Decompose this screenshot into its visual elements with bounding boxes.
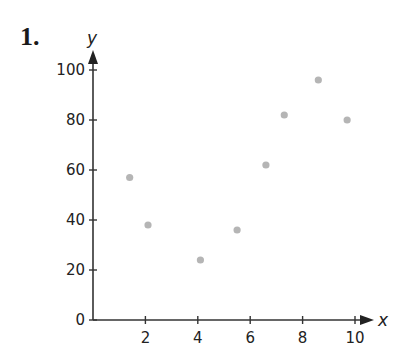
scatter-chart: yx020406080100246810 [0,0,406,361]
y-tick-label: 80 [66,111,85,129]
y-tick-label: 40 [66,211,85,229]
x-axis-label: x [377,310,389,330]
data-points [126,76,351,263]
axes: yx020406080100246810 [56,28,389,347]
data-point [197,256,204,263]
y-axis-arrow-icon [88,50,98,64]
x-tick-label: 4 [193,329,203,347]
data-point [126,174,133,181]
data-point [281,111,288,118]
data-point [234,226,241,233]
data-point [315,76,322,83]
x-tick-label: 6 [245,329,255,347]
x-axis-arrow-icon [360,315,374,325]
y-tick-label: 100 [56,61,85,79]
data-point [344,116,351,123]
x-tick-label: 8 [298,329,308,347]
x-tick-label: 2 [141,329,151,347]
data-point [262,161,269,168]
y-tick-label: 60 [66,161,85,179]
y-tick-label: 0 [75,311,85,329]
y-tick-label: 20 [66,261,85,279]
data-point [144,221,151,228]
x-tick-label: 10 [345,329,364,347]
y-axis-label: y [86,28,98,48]
